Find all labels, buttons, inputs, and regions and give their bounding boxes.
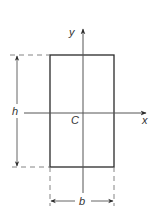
cross-section-rectangle (50, 55, 114, 167)
x-axis-label: x (141, 114, 148, 126)
rectangle-section-diagram: y x C h b (0, 0, 159, 219)
height-label: h (12, 105, 18, 117)
centroid-label: C (71, 114, 79, 126)
base-label: b (79, 195, 85, 207)
y-axis-label: y (68, 26, 76, 38)
